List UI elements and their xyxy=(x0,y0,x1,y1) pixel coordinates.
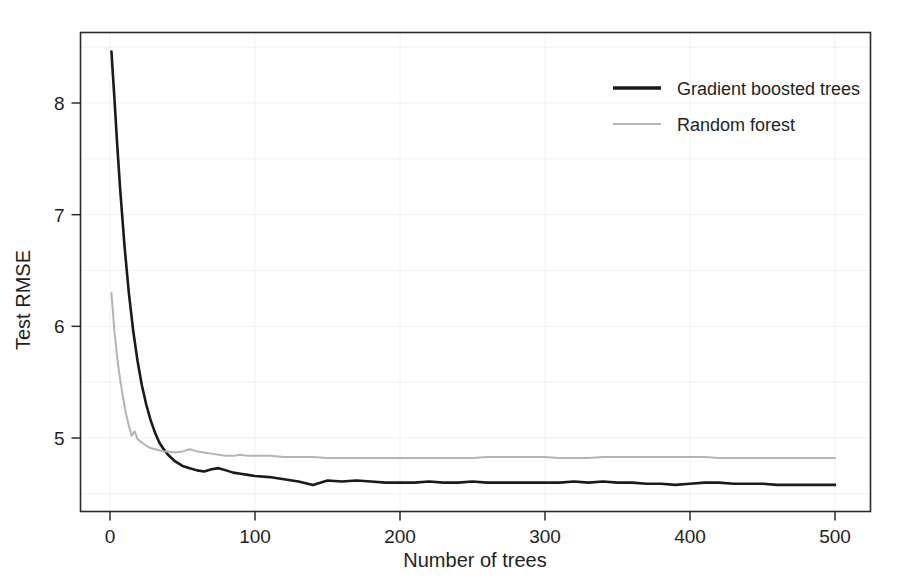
x-tick-label: 200 xyxy=(384,526,416,547)
x-tick-label: 500 xyxy=(819,526,851,547)
legend-label-1: Random forest xyxy=(677,115,795,135)
x-tick-label: 0 xyxy=(105,526,116,547)
y-tick-label: 6 xyxy=(54,316,65,337)
x-tick-label: 400 xyxy=(674,526,706,547)
chart-svg: 01002003004005005678 Gradient boosted tr… xyxy=(0,0,903,584)
y-tick-label: 5 xyxy=(54,428,65,449)
y-tick-label: 8 xyxy=(54,93,65,114)
y-tick-label: 7 xyxy=(54,205,65,226)
x-tick-label: 100 xyxy=(239,526,271,547)
legend-label-0: Gradient boosted trees xyxy=(677,79,860,99)
x-axis-title: Number of trees xyxy=(403,549,546,571)
y-axis-title: Test RMSE xyxy=(12,250,34,350)
chart-figure: 01002003004005005678 Gradient boosted tr… xyxy=(0,0,903,584)
x-tick-label: 300 xyxy=(529,526,561,547)
